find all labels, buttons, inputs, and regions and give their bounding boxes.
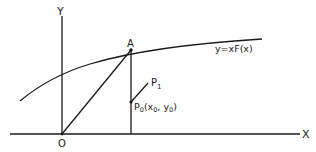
point-A-label: A [127,38,134,49]
diagram-canvas: Y X O A P1 P0(x0, y0) y=xF(x) [0,0,316,152]
point-P1-label: P1 [151,77,162,91]
point-P0-label: P0(x0, y0) [134,101,177,114]
curve-label: y=xF(x) [215,43,253,54]
line-P0-P1 [131,83,148,102]
point-O [61,133,64,136]
origin-label: O [58,138,66,149]
point-P0 [129,100,132,103]
y-axis-label: Y [56,5,64,18]
x-axis-label: X [302,128,310,141]
